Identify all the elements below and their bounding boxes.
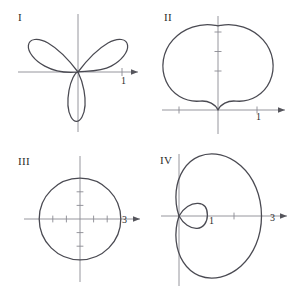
panel-4-x-tick-label-1: 1 <box>209 216 214 226</box>
panel-1: I 1 <box>0 0 154 146</box>
panel-1-plot <box>0 0 154 146</box>
panel-2-plot <box>154 0 308 146</box>
panel-3-roman-label: III <box>18 156 30 167</box>
panel-4-plot <box>154 146 308 292</box>
panel-2-roman-label: II <box>164 12 172 23</box>
panel-1-x-tick-label: 1 <box>121 76 126 86</box>
panel-4-roman-label: IV <box>160 155 172 166</box>
panel-1-roman-label: I <box>18 12 22 23</box>
panel-3-plot <box>0 146 154 292</box>
panel-2: II 1 <box>154 0 308 146</box>
panel-4-x-tick-label-3: 3 <box>270 213 275 223</box>
panel-2-x-tick-label: 1 <box>256 112 261 122</box>
polar-curves-figure: I 1 II 1 <box>0 0 308 292</box>
panel-4: IV 1 3 <box>154 146 308 292</box>
panel-3: III 3 <box>0 146 154 292</box>
panel-3-x-tick-label: 3 <box>122 215 127 225</box>
panel-4-axes <box>161 154 287 286</box>
